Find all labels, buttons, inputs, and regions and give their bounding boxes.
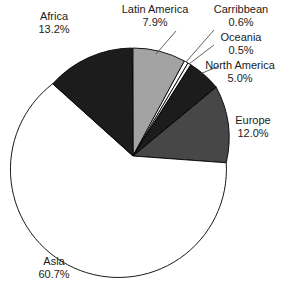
- pie-label-asia-value: 60.7%: [21, 268, 87, 281]
- pie-label-north-america-value: 5.0%: [194, 72, 286, 85]
- pie-label-asia: Asia 60.7%: [21, 255, 87, 281]
- pie-label-caribbean: Carribbean 0.6%: [199, 3, 283, 29]
- pie-label-caribbean-value: 0.6%: [199, 16, 283, 29]
- pie-label-north-america: North America 5.0%: [194, 59, 286, 85]
- pie-label-africa-name: Africa: [19, 10, 89, 23]
- pie-label-africa: Africa 13.2%: [19, 10, 89, 36]
- pie-label-asia-name: Asia: [21, 255, 87, 268]
- leader-line-latin-america: [156, 31, 176, 54]
- pie-label-north-america-name: North America: [194, 59, 286, 72]
- pie-label-caribbean-name: Carribbean: [199, 3, 283, 16]
- pie-chart-figure: Africa 13.2% Latin America 7.9% Carribbe…: [0, 0, 289, 293]
- pie-label-europe: Europe 12.0%: [222, 114, 284, 140]
- pie-label-oceania-name: Oceania: [199, 31, 283, 44]
- pie-label-oceania: Oceania 0.5%: [199, 31, 283, 57]
- pie-label-latin-america-name: Latin America: [113, 3, 197, 16]
- pie-label-europe-value: 12.0%: [222, 127, 284, 140]
- pie-label-oceania-value: 0.5%: [199, 44, 283, 57]
- pie-label-europe-name: Europe: [222, 114, 284, 127]
- pie-label-latin-america-value: 7.9%: [113, 16, 197, 29]
- pie-label-africa-value: 13.2%: [19, 23, 89, 36]
- pie-label-latin-america: Latin America 7.9%: [113, 3, 197, 29]
